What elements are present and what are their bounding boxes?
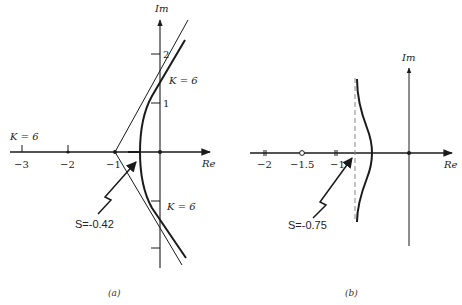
caption-a: (a) [108,288,121,298]
real-tick-label: −1.5 [290,159,314,170]
panel-b: Im Re −2 −1.5 −1 S=-0.75 (b) [250,52,458,298]
gain-label: K = 6 [168,75,198,86]
real-axis-label-a: Re [201,158,216,169]
real-tick-label: −3 [14,159,29,170]
breakaway-label-b: S=-0.75 [288,219,327,231]
zero-marker [300,151,305,156]
imag-axis-label-b: Im [401,52,415,63]
gain-label: K = 6 [9,131,39,142]
pole-marker [407,151,411,155]
real-tick-label: −1 [330,159,345,170]
imag-tick-label: 1 [163,98,169,109]
pole-marker [158,150,162,154]
real-tick-label: −1 [106,159,121,170]
real-axis-label-b: Re [443,159,458,170]
pole-marker [66,150,69,153]
real-tick-label: −2 [257,159,272,170]
caption-b: (b) [345,288,358,298]
gain-label: K = 6 [166,201,196,212]
locus-branch-b [357,79,372,222]
imag-tick-label: 2 [163,49,169,60]
asymptote-upper [115,20,188,152]
breakaway-label-a: S=-0.42 [75,218,114,230]
root-locus-figure: Im Re −3 −2 −1 2 1 K = 6 K = 6 K = 6 S=-… [0,0,462,305]
real-tick-label: −2 [60,159,75,170]
panel-a: Im Re −3 −2 −1 2 1 K = 6 K = 6 K = 6 S=-… [9,3,216,298]
imag-axis-label-a: Im [154,3,168,14]
